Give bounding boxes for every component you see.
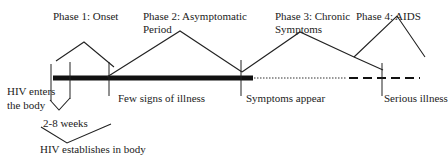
phase3-label-line2: Symptoms	[275, 23, 350, 36]
establish-text: HIV establishes in body	[40, 143, 146, 155]
phase2-roof	[107, 31, 242, 77]
hiv-enters-label: HIV enters the body	[7, 84, 55, 112]
hiv-enters-line2: the body	[7, 98, 55, 112]
phase1-roof	[56, 42, 114, 67]
interval-text: 2-8 weeks	[43, 117, 88, 129]
interval-label: 2-8 weeks	[43, 117, 88, 130]
few-signs-text: Few signs of illness	[118, 92, 205, 104]
phase3-roof	[242, 32, 383, 72]
serious-illness-label: Serious illness	[384, 92, 448, 105]
symptoms-appear-label: Symptoms appear	[246, 92, 325, 105]
phase2-label: Phase 2: Asymptomatic Period	[143, 10, 247, 36]
establish-label: HIV establishes in body	[40, 143, 146, 156]
phase1-label: Phase 1: Onset	[53, 10, 118, 23]
symptoms-appear-text: Symptoms appear	[246, 92, 325, 104]
phase1-label-text: Phase 1: Onset	[53, 10, 118, 22]
phase2-label-line2: Period	[143, 23, 247, 36]
phase3-label: Phase 3: Chronic Symptoms	[275, 10, 350, 36]
phase4-label-text: Phase 4: AIDS	[356, 10, 421, 22]
hiv-enters-line1: HIV enters	[7, 84, 55, 98]
phase3-label-line1: Phase 3: Chronic	[275, 10, 350, 23]
phase4-label: Phase 4: AIDS	[356, 10, 421, 23]
phase2-label-line1: Phase 2: Asymptomatic	[143, 10, 247, 23]
serious-illness-text: Serious illness	[384, 92, 448, 104]
few-signs-label: Few signs of illness	[118, 92, 205, 105]
